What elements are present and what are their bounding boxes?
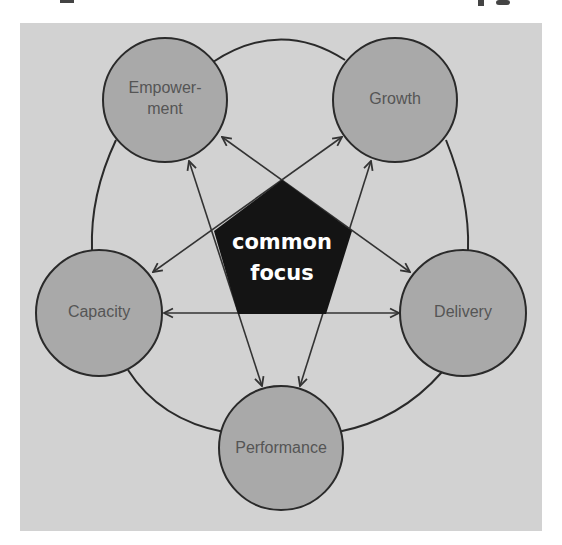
- center-label-line1: common: [232, 230, 332, 254]
- cropped-heading-remnants: [60, 0, 510, 6]
- node-label-empowerment-line2: ment: [147, 100, 183, 117]
- node-growth: Growth: [333, 38, 457, 162]
- node-performance: Performance: [219, 386, 343, 510]
- node-label-delivery: Delivery: [434, 303, 492, 320]
- node-empowerment: Empower- ment: [103, 38, 227, 162]
- node-delivery: Delivery: [400, 250, 526, 376]
- common-focus-diagram: common focus Empower- ment Growth Capaci…: [0, 0, 562, 545]
- node-label-performance: Performance: [235, 439, 327, 456]
- center-label-line2: focus: [250, 261, 313, 285]
- node-label-capacity: Capacity: [68, 303, 130, 320]
- node-capacity: Capacity: [36, 250, 162, 376]
- node-label-growth: Growth: [369, 90, 421, 107]
- node-label-empowerment-line1: Empower-: [129, 79, 202, 96]
